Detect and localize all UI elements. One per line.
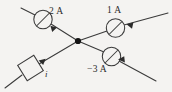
branch-upper-right bbox=[78, 13, 168, 41]
current-label-i: i bbox=[45, 70, 48, 79]
wire-lower-right-inner bbox=[78, 41, 104, 52]
branch-lower-right bbox=[78, 41, 156, 81]
diagram-canvas bbox=[0, 0, 172, 92]
wire-upper-left-outer bbox=[21, 8, 35, 15]
current-label-minus-3a: −3 A bbox=[87, 65, 107, 75]
junction-node-dot bbox=[75, 38, 81, 44]
circuit-element-box bbox=[18, 55, 44, 80]
wire-lower-left-outer bbox=[5, 75, 22, 88]
wire-upper-left-inner bbox=[51, 24, 78, 41]
wire-upper-right-inner bbox=[78, 31, 107, 41]
branch-lower-left bbox=[5, 41, 78, 88]
current-label-1a: 1 A bbox=[107, 6, 121, 16]
circuit-diagram-figure: 2 A 1 A −3 A i bbox=[0, 0, 172, 92]
current-label-2a: 2 A bbox=[49, 7, 63, 17]
wire-lower-right-outer bbox=[119, 61, 156, 81]
